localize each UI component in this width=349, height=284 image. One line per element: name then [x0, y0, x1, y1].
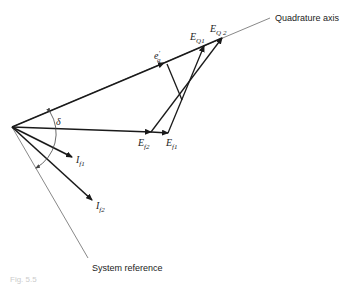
ef1-label: Ef1 [165, 137, 178, 151]
ef2-to-eq2-phasor [151, 38, 222, 132]
eq1-label: EQ1 [189, 31, 205, 45]
eq-prime-perpendicular [167, 64, 182, 100]
ef2-phasor [12, 127, 151, 132]
eq-prime-label: e′q [154, 49, 161, 64]
if1-label: If1 [75, 154, 85, 168]
eq2-label: EQ 2 [209, 23, 227, 37]
quadrature-axis-label: Quadrature axis [275, 13, 340, 23]
phasor-diagram: Quadrature axis System reference δ e′q E… [0, 0, 349, 284]
eq-prime-phasor [12, 63, 164, 127]
delta-label: δ [56, 116, 61, 127]
if2-label: If2 [95, 200, 105, 214]
system-reference-label: System reference [92, 263, 163, 273]
ef1-segment [151, 132, 168, 133]
figure-caption: Fig. 5.5 [10, 275, 37, 284]
ef2-label: Ef2 [137, 137, 150, 151]
